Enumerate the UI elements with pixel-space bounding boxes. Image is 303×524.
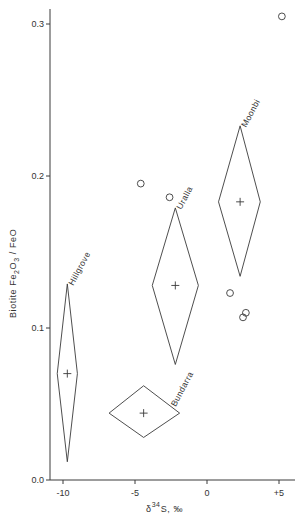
y-tick-label: 0.1 xyxy=(31,323,44,333)
open-circle-point xyxy=(278,13,285,20)
diamond-uralla: Uralla xyxy=(152,184,198,364)
mean-cross-icon xyxy=(63,370,71,378)
mean-cross-icon xyxy=(236,198,244,206)
mean-cross-icon xyxy=(140,409,148,417)
x-tick-label: -5 xyxy=(131,488,139,498)
mean-cross-icon xyxy=(171,281,179,289)
y-tick-label: 0.3 xyxy=(31,19,44,29)
y-tick-label: 0.0 xyxy=(31,475,44,485)
open-circle-point xyxy=(227,290,234,297)
range-diamond xyxy=(109,386,180,438)
group-diamonds: HillgroveBundarraUrallaMoonbi xyxy=(57,97,262,461)
group-label: Moonbi xyxy=(239,97,262,128)
data-points xyxy=(137,13,285,321)
group-label: Bundarra xyxy=(169,370,196,408)
diamond-hillgrove: Hillgrove xyxy=(57,250,92,462)
x-axis-title: δ34S, ‰ xyxy=(146,501,183,514)
open-circle-point xyxy=(137,180,144,187)
x-tick-label: 0 xyxy=(204,488,209,498)
y-axis-title: Biotite Fe2O3 / FeO xyxy=(8,229,20,318)
x-tick-label: -10 xyxy=(56,488,69,498)
range-diamond xyxy=(219,126,261,276)
open-circle-point xyxy=(166,194,173,201)
y-tick-label: 0.2 xyxy=(31,171,44,181)
diamond-moonbi: Moonbi xyxy=(219,97,263,276)
x-tick-label: +5 xyxy=(274,488,284,498)
scatter-chart: -10-50+50.00.10.20.3 HillgroveBundarraUr… xyxy=(0,0,303,524)
diamond-bundarra: Bundarra xyxy=(109,370,195,438)
group-label: Hillgrove xyxy=(66,250,92,287)
group-label: Uralla xyxy=(174,184,194,210)
